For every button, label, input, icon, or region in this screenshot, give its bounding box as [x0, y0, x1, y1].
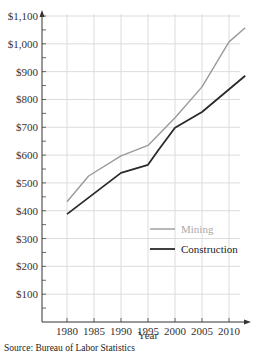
y-tick-label: $100 — [16, 288, 39, 300]
y-tick-label: $800 — [16, 93, 39, 105]
y-tick-label: $400 — [16, 205, 39, 217]
legend-label-mining: Mining — [181, 223, 214, 235]
y-tick-label: $1,000 — [8, 38, 39, 50]
x-axis-label: Year — [138, 329, 159, 341]
y-tick-label: $500 — [16, 177, 39, 189]
y-tick-label: $300 — [16, 233, 39, 245]
x-tick-label: 1985 — [83, 325, 106, 337]
x-tick-label: 2000 — [164, 325, 187, 337]
legend-label-construction: Construction — [181, 243, 238, 255]
x-axis-arrow — [244, 320, 251, 325]
x-tick-label: 2010 — [218, 325, 241, 337]
y-tick-label: $600 — [16, 149, 39, 161]
x-tick-label: 1990 — [110, 325, 133, 337]
y-tick-label: $1,100 — [8, 10, 39, 22]
y-tick-label: $900 — [16, 66, 39, 78]
x-tick-label: 1980 — [56, 325, 79, 337]
grid — [42, 14, 240, 322]
y-axis-ticks: $100$200$300$400$500$600$700$800$900$1,0… — [8, 10, 46, 308]
y-tick-label: $200 — [16, 260, 39, 272]
source-note: Source: Bureau of Labor Statistics — [4, 343, 135, 353]
x-tick-label: 2005 — [191, 325, 214, 337]
y-tick-label: $700 — [16, 121, 39, 133]
line-chart: $100$200$300$400$500$600$700$800$900$1,0… — [0, 0, 255, 356]
